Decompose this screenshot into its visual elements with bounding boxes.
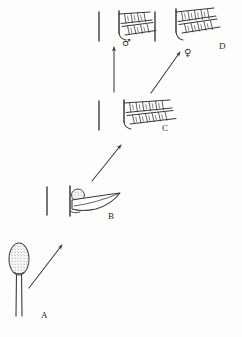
female-symbol: ♀ <box>184 48 191 58</box>
panel-label-c: C <box>162 124 168 133</box>
panel-label-d: D <box>219 42 226 51</box>
arrow-a-to-b <box>29 245 62 288</box>
panel-label-a: A <box>41 311 48 320</box>
figure-drawing <box>0 0 242 337</box>
stage-d-female-group <box>176 8 220 40</box>
panel-label-b: B <box>108 212 114 221</box>
male-symbol: ♂ <box>122 38 131 48</box>
arrow-b-to-c <box>92 145 121 181</box>
stage-a-spore-group <box>9 243 29 316</box>
figure-root: A B C D ♂ ♀ <box>0 0 242 337</box>
arrow-c-to-female <box>151 52 180 93</box>
